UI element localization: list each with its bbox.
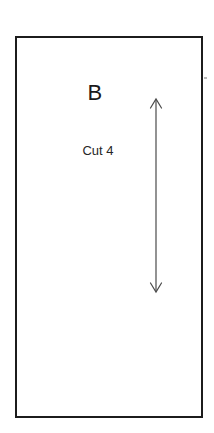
grainline-arrow-icon xyxy=(140,92,172,300)
pattern-diagram-canvas: B Cut 4 xyxy=(0,0,214,433)
edge-registration-tick-icon xyxy=(204,77,207,79)
